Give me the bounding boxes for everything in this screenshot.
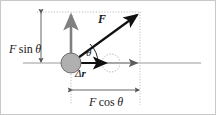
displacement-symbol: r xyxy=(81,67,85,79)
displacement-label: Δr xyxy=(75,68,86,79)
vertical-component-label: F sin θ xyxy=(9,43,41,55)
force-vector-label: F xyxy=(98,13,106,25)
horizontal-component-label: F cos θ xyxy=(89,96,123,108)
angle-label: θ xyxy=(86,47,91,58)
vertical-component-angle: θ xyxy=(35,42,41,56)
horizontal-component-angle: θ xyxy=(117,95,123,109)
horizontal-component-operator: cos xyxy=(99,95,115,109)
force-diagram-figure: F sin θ F cos θ F θ Δr xyxy=(0,0,216,115)
vertical-component-operator: sin xyxy=(19,42,33,56)
